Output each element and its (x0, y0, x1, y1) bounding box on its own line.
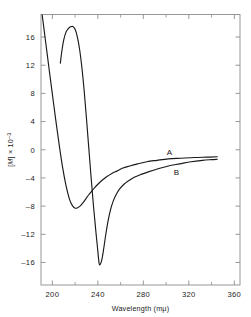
y-axis-title: [M] × 10–3 (6, 133, 15, 167)
curve-labels: AB (167, 148, 179, 177)
y-axis-ticks (41, 37, 240, 262)
x-axis-tick-labels: 200240280320360 (46, 290, 242, 299)
y-tick-label: –12 (21, 230, 35, 239)
x-tick-label: 200 (46, 290, 60, 299)
curve-label-A: A (167, 148, 173, 157)
plot-frame (41, 15, 240, 286)
spectrum-chart: 200240280320360 1612840–4–8–12–16 AB Wav… (0, 0, 251, 317)
x-tick-label: 360 (227, 290, 241, 299)
y-axis-tick-labels: 1612840–4–8–12–16 (21, 33, 35, 267)
x-tick-label: 280 (136, 290, 150, 299)
x-axis-title-text: Wavelength (mμ) (112, 304, 170, 313)
curve-B (60, 26, 217, 265)
x-axis-ticks (52, 15, 234, 286)
x-tick-label: 240 (91, 290, 105, 299)
x-tick-label: 320 (182, 290, 196, 299)
y-tick-label: 16 (26, 33, 35, 42)
y-tick-label: –4 (26, 174, 35, 183)
y-tick-label: 12 (26, 61, 35, 70)
y-tick-label: 8 (30, 89, 35, 98)
curve-A (42, 15, 217, 209)
curve-label-B: B (174, 168, 179, 177)
x-axis-title: Wavelength (mμ) (112, 304, 170, 313)
y-tick-label: 4 (30, 117, 35, 126)
data-curves (42, 15, 217, 265)
figure-panel: 200240280320360 1612840–4–8–12–16 AB Wav… (0, 0, 251, 317)
y-axis-title-text: [M] × 10–3 (6, 133, 15, 167)
y-tick-label: –8 (26, 202, 35, 211)
y-tick-label: –16 (21, 258, 35, 267)
y-tick-label: 0 (30, 146, 35, 155)
